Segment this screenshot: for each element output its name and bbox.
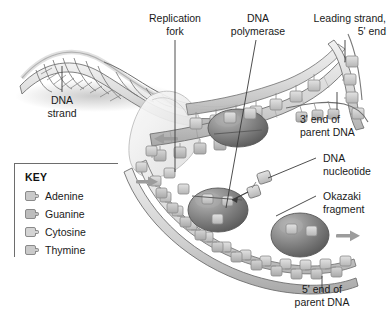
dna-polymerase-lagging-lower [271, 213, 329, 257]
key-item-cytosine: Cytosine [25, 224, 86, 240]
key-item-label: Cytosine [45, 226, 86, 238]
dna-replication-figure: DNA strand Replication fork DNA polymera… [0, 0, 390, 317]
key-title: KEY [25, 171, 47, 183]
cytosine-swatch [25, 227, 36, 237]
key-item-label: Guanine [45, 208, 85, 220]
dna-polymerase-lagging-upper [188, 188, 248, 232]
label-three-prime-end: 3' end of parent DNA [300, 113, 386, 138]
label-leading-strand: Leading strand, 5' end [300, 12, 386, 37]
label-five-prime-end: 5' end of parent DNA [274, 283, 370, 308]
label-dna-nucleotide: DNA nucleotide [323, 152, 389, 177]
adenine-swatch [25, 191, 36, 201]
leader-dna-nucleotide [268, 158, 316, 178]
guanine-swatch [25, 209, 36, 219]
label-dna-strand: DNA strand [35, 94, 89, 119]
thymine-swatch [25, 245, 36, 255]
key-legend: KEY Adenine Guanine Cytosine Thymine [14, 163, 118, 257]
label-okazaki-fragment: Okazaki fragment [323, 190, 389, 215]
label-dna-polymerase: DNA polymerase [218, 12, 298, 37]
key-item-label: Adenine [45, 190, 84, 202]
key-item-guanine: Guanine [25, 206, 85, 222]
okazaki-arrow [336, 230, 360, 241]
key-item-label: Thymine [45, 244, 85, 256]
key-item-thymine: Thymine [25, 242, 85, 258]
key-item-adenine: Adenine [25, 188, 84, 204]
label-replication-fork: Replication fork [137, 12, 213, 37]
